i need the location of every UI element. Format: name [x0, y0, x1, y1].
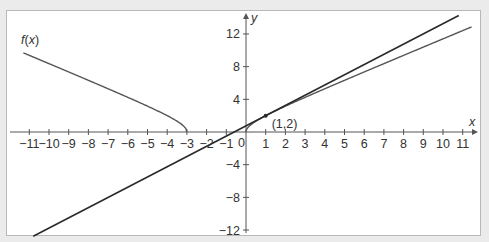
y-tick-label: −4 [226, 158, 240, 172]
x-tick-label: 8 [400, 137, 407, 151]
y-tick-label: −12 [219, 224, 240, 238]
x-tick-label: 7 [380, 137, 387, 151]
y-axis-label: y [250, 11, 258, 25]
chart-plot: xy−11−10−9−8−7−6−5−4−3−2−101234567891011… [0, 0, 489, 242]
origin-label: 0 [238, 136, 245, 150]
curve-fx-left-branch [23, 53, 187, 132]
x-tick-label: 9 [420, 137, 427, 151]
x-tick-label: 5 [341, 137, 348, 151]
y-axis-arrow-icon [243, 13, 249, 19]
y-tick-label: 4 [233, 93, 240, 107]
x-tick-label: −4 [160, 137, 174, 151]
point-label: (1,2) [272, 117, 298, 131]
y-tick-label: −8 [226, 191, 240, 205]
x-tick-label: −11 [19, 137, 39, 151]
x-tick-label: −10 [38, 137, 59, 151]
x-tick-label: 6 [361, 137, 368, 151]
y-tick-label: 12 [226, 27, 240, 41]
tangent-point-marker [264, 114, 268, 118]
x-tick-label: −9 [62, 137, 76, 151]
x-tick-label: 3 [302, 137, 309, 151]
x-tick-label: −8 [81, 137, 95, 151]
x-tick-label: 2 [282, 137, 289, 151]
x-tick-label: 1 [262, 137, 269, 151]
x-axis-arrow-icon [472, 129, 478, 135]
curve-fx-label: f(x) [21, 33, 39, 47]
x-tick-label: −5 [140, 137, 154, 151]
x-tick-label: 11 [456, 137, 469, 151]
x-tick-label: −6 [121, 137, 135, 151]
y-tick-label: 8 [233, 60, 240, 74]
x-tick-label: 4 [321, 137, 328, 151]
x-tick-label: −7 [101, 137, 115, 151]
x-axis-label: x [468, 115, 476, 129]
x-tick-label: −3 [180, 137, 194, 151]
x-tick-label: 10 [436, 137, 450, 151]
